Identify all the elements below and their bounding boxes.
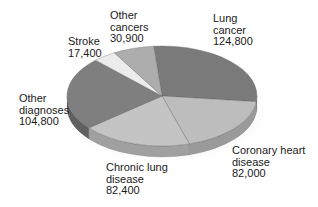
- label-value: 82,000: [232, 168, 305, 180]
- label-text: Stroke: [68, 36, 102, 48]
- label-text: Coronary heart: [232, 145, 305, 157]
- label-stroke: Stroke 17,400: [68, 36, 102, 59]
- label-text: Other: [110, 10, 149, 22]
- label-lung-cancer: Lung cancer 124,800: [213, 13, 253, 48]
- label-value: 17,400: [68, 48, 102, 60]
- label-value: 104,800: [19, 116, 69, 128]
- label-value: 82,400: [106, 185, 168, 197]
- label-value: 124,800: [213, 36, 253, 48]
- label-text: Lung: [213, 13, 253, 25]
- label-other-diagnoses: Other diagnoses 104,800: [19, 93, 69, 128]
- pie-tops: [67, 46, 257, 146]
- label-text: Chronic lung: [106, 162, 168, 174]
- label-text: Other: [19, 93, 69, 105]
- label-other-cancers: Other cancers 30,900: [110, 10, 149, 45]
- slice-lung-cancer: [154, 46, 257, 102]
- label-chronic-lung-disease: Chronic lung disease 82,400: [106, 162, 168, 197]
- label-value: 30,900: [110, 33, 149, 45]
- label-coronary-heart-disease: Coronary heart disease 82,000: [232, 145, 305, 180]
